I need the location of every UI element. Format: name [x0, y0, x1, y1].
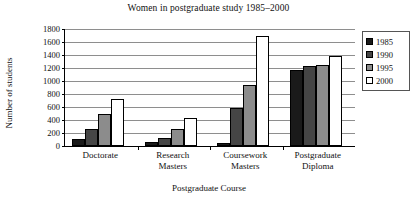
y-tick-label: 1800 — [26, 25, 60, 33]
legend-item[interactable]: 1985 — [366, 35, 407, 48]
y-axis-label: Number of students — [4, 58, 14, 129]
bar — [290, 70, 303, 146]
x-category-label-line: Masters — [137, 161, 210, 172]
x-category-label-line: Diploma — [282, 161, 355, 172]
x-category-label-line: Doctorate — [64, 150, 137, 161]
bar — [303, 66, 316, 146]
legend-swatch-icon — [366, 77, 373, 84]
x-category-label: ResearchMasters — [137, 150, 210, 171]
y-tick-label: 200 — [26, 129, 60, 137]
bar — [98, 114, 111, 147]
x-category-label-line: Research — [137, 150, 210, 161]
legend-swatch-icon — [366, 38, 373, 45]
bar-group — [210, 29, 283, 146]
y-tick-label: 1400 — [26, 51, 60, 59]
y-tick-label: 400 — [26, 116, 60, 124]
x-axis-label: Postgraduate Course — [64, 183, 354, 193]
legend-swatch-icon — [366, 51, 373, 58]
bar-group — [283, 29, 356, 146]
bar-group — [138, 29, 211, 146]
y-axis-label-container: Number of students — [2, 34, 16, 152]
x-category-label-line: Coursework — [209, 150, 282, 161]
y-tick-label: 1000 — [26, 77, 60, 85]
y-tick-label: 600 — [26, 103, 60, 111]
bar — [111, 99, 124, 146]
x-category-label: CourseworkMasters — [209, 150, 282, 171]
legend-label: 1995 — [376, 63, 393, 73]
legend-label: 1990 — [376, 50, 393, 60]
bar — [145, 142, 158, 146]
bar — [72, 139, 85, 146]
bar — [316, 65, 329, 146]
bar — [158, 138, 171, 146]
x-category-label: PostgraduateDiploma — [282, 150, 355, 171]
bar — [329, 56, 342, 146]
legend-label: 2000 — [376, 76, 393, 86]
x-category-label: Doctorate — [64, 150, 137, 161]
legend-swatch-icon — [366, 64, 373, 71]
plot-area — [64, 29, 355, 147]
bar — [184, 118, 197, 146]
y-tick-label: 1200 — [26, 64, 60, 72]
x-category-label-line: Masters — [209, 161, 282, 172]
bar — [171, 129, 184, 146]
bar-group — [65, 29, 138, 146]
legend-item[interactable]: 2000 — [366, 74, 407, 87]
bar — [243, 85, 256, 146]
y-tick-label: 800 — [26, 90, 60, 98]
chart-title: Women in postgraduate study 1985–2000 — [0, 3, 417, 13]
y-tick-label: 1600 — [26, 38, 60, 46]
bar — [217, 143, 230, 146]
bar — [230, 108, 243, 146]
legend-item[interactable]: 1995 — [366, 61, 407, 74]
legend-label: 1985 — [376, 37, 393, 47]
bar — [256, 36, 269, 147]
y-tick-label: 0 — [26, 142, 60, 150]
x-category-label-line: Postgraduate — [282, 150, 355, 161]
chart-figure: Women in postgraduate study 1985–2000 Nu… — [0, 0, 417, 210]
legend: 1985199019952000 — [362, 31, 410, 91]
y-tick-mark — [62, 146, 65, 147]
bar-groups — [65, 29, 355, 146]
legend-item[interactable]: 1990 — [366, 48, 407, 61]
bar — [85, 129, 98, 146]
